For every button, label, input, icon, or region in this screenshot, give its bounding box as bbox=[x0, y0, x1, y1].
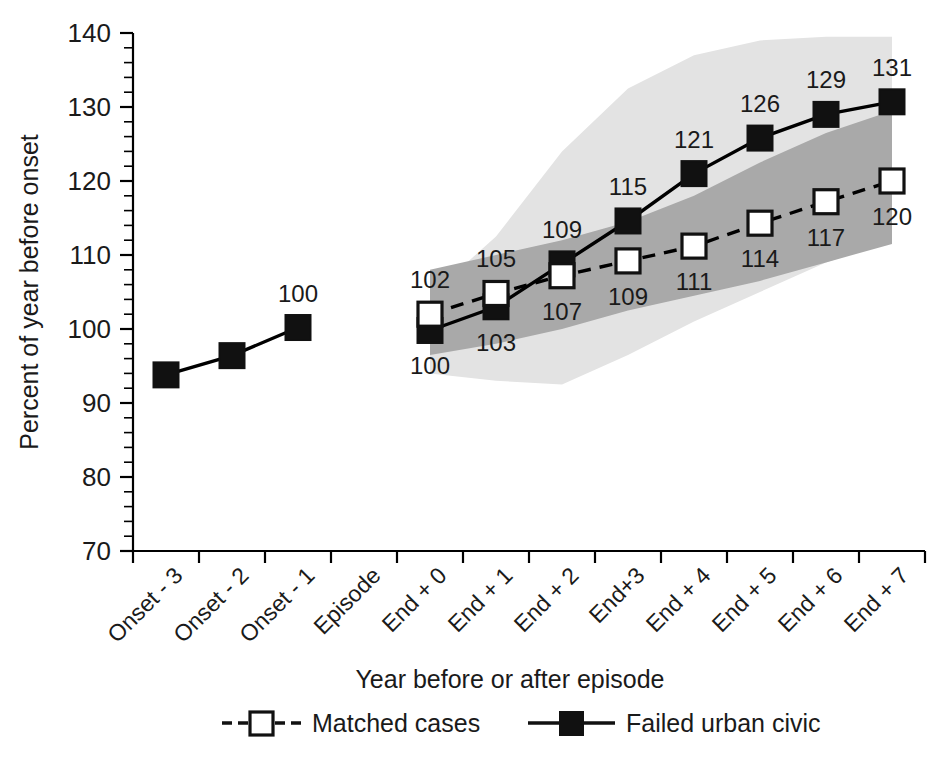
legend-filled-square-icon bbox=[560, 712, 583, 735]
data-point-marker[interactable] bbox=[814, 102, 839, 127]
data-point-label: 120 bbox=[872, 203, 912, 230]
data-point-marker[interactable] bbox=[154, 362, 179, 387]
data-point-label: 102 bbox=[410, 266, 450, 293]
data-point-marker[interactable] bbox=[616, 249, 640, 273]
data-point-marker[interactable] bbox=[880, 169, 904, 193]
x-axis-tick-label: End + 7 bbox=[839, 562, 914, 637]
data-point-label: 114 bbox=[741, 245, 779, 272]
data-point-label: 115 bbox=[609, 173, 647, 200]
y-axis-tick-label: 100 bbox=[68, 314, 111, 344]
y-axis-tick-label: 140 bbox=[68, 18, 111, 48]
data-point-label: 100 bbox=[410, 352, 450, 379]
data-point-marker[interactable] bbox=[682, 234, 706, 258]
data-point-marker[interactable] bbox=[748, 211, 772, 235]
data-point-label: 107 bbox=[542, 298, 582, 325]
x-axis-tick-label: End + 0 bbox=[377, 562, 452, 637]
data-point-marker[interactable] bbox=[748, 126, 773, 151]
data-point-label: 111 bbox=[676, 268, 712, 295]
data-point-marker[interactable] bbox=[880, 89, 905, 114]
x-axis-tick-label: End + 4 bbox=[641, 562, 716, 637]
y-axis-ticks: 140130120110100908070 bbox=[68, 18, 133, 566]
x-axis-tick-label: Episode bbox=[308, 562, 385, 639]
legend-label-failed-urban-civic: Failed urban civic bbox=[626, 709, 821, 737]
x-axis-ticks bbox=[133, 551, 925, 563]
data-point-marker[interactable] bbox=[682, 161, 707, 186]
legend-item-matched-cases[interactable]: Matched cases bbox=[222, 709, 480, 737]
x-axis-tick-label: End+3 bbox=[584, 562, 650, 628]
y-axis-tick-label: 120 bbox=[68, 166, 111, 196]
x-axis-tick-labels: Onset - 3Onset - 2Onset - 1EpisodeEnd + … bbox=[102, 562, 913, 647]
data-point-label: 129 bbox=[806, 66, 846, 93]
y-axis-title: Percent of year before onset bbox=[15, 134, 43, 450]
line-chart-figure: 140130120110100908070 Onset - 3Onset - 2… bbox=[0, 0, 938, 761]
x-axis-tick-label: End + 1 bbox=[443, 562, 518, 637]
data-point-label: 109 bbox=[608, 283, 648, 310]
data-point-label: 103 bbox=[476, 329, 516, 356]
y-axis-tick-label: 80 bbox=[82, 462, 111, 492]
data-point-label: 121 bbox=[674, 126, 714, 153]
data-point-marker[interactable] bbox=[418, 302, 442, 326]
data-point-marker[interactable] bbox=[484, 281, 508, 305]
y-axis-tick-label: 130 bbox=[68, 92, 111, 122]
x-axis-tick-label: End + 5 bbox=[707, 562, 782, 637]
x-axis-tick-label: End + 6 bbox=[773, 562, 848, 637]
data-point-label: 126 bbox=[740, 90, 780, 117]
legend-label-matched-cases: Matched cases bbox=[312, 709, 480, 737]
data-point-marker[interactable] bbox=[814, 190, 838, 214]
y-axis-tick-label: 110 bbox=[70, 240, 111, 270]
data-point-label: 109 bbox=[542, 216, 582, 243]
legend-item-failed-urban-civic[interactable]: Failed urban civic bbox=[528, 709, 821, 737]
data-point-label: 131 bbox=[872, 54, 912, 81]
data-point-label: 117 bbox=[807, 224, 845, 251]
x-axis-tick-label: End + 2 bbox=[509, 562, 584, 637]
y-axis-tick-label: 90 bbox=[82, 388, 111, 418]
x-axis-title: Year before or after episode bbox=[355, 665, 664, 693]
data-point-marker[interactable] bbox=[550, 264, 574, 288]
y-axis-tick-label: 70 bbox=[82, 536, 111, 566]
data-point-label: 105 bbox=[476, 245, 516, 272]
chart-container: 140130120110100908070 Onset - 3Onset - 2… bbox=[0, 0, 938, 761]
data-point-marker[interactable] bbox=[286, 315, 311, 340]
data-point-marker[interactable] bbox=[220, 343, 245, 368]
data-point-label: 100 bbox=[278, 280, 318, 307]
data-point-marker[interactable] bbox=[616, 208, 641, 233]
legend-open-square-icon bbox=[250, 712, 273, 735]
chart-legend: Matched cases Failed urban civic bbox=[222, 709, 821, 737]
